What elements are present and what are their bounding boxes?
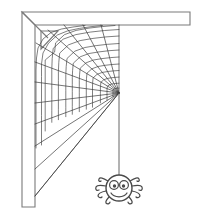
spider-leg <box>96 185 106 190</box>
spider-leg <box>99 178 108 181</box>
corner-bracket-frame <box>22 12 190 207</box>
web-ring <box>79 57 119 112</box>
spider-leg <box>98 191 106 198</box>
spider-pupil-right <box>122 184 125 187</box>
web-spoke <box>35 93 119 169</box>
frame-left-bar <box>22 12 35 207</box>
spider-pupil-left <box>113 184 116 187</box>
illustration-canvas: Spider Web in Corner with Hanging Spider… <box>0 0 197 222</box>
spider-leg <box>132 191 140 198</box>
frame-top-bar <box>22 12 190 25</box>
web-ring <box>45 26 115 132</box>
spider-leg <box>130 178 139 181</box>
spider-web-corner-drawing <box>0 0 197 222</box>
web-ring <box>52 30 119 123</box>
web-spoke <box>101 25 119 93</box>
spider-leg <box>132 185 142 190</box>
web-spoke <box>35 82 119 93</box>
spider-web-group <box>35 25 119 196</box>
web-rings <box>36 26 119 149</box>
cartoon-spider <box>96 175 143 204</box>
